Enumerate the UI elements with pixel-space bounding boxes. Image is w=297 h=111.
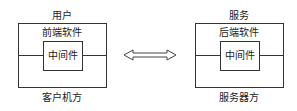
client-middleware-label: 中间件 xyxy=(43,50,83,62)
server-left-line xyxy=(195,55,220,56)
client-bottom-label: 客户机方 xyxy=(30,92,94,104)
server-software-label: 后端软件 xyxy=(207,27,271,39)
server-right-line xyxy=(259,55,284,56)
double-arrow-icon xyxy=(122,48,178,62)
client-top-label: 用户 xyxy=(40,10,84,22)
client-left-line xyxy=(18,55,43,56)
server-bottom-label: 服务器方 xyxy=(207,92,271,104)
server-top-label: 服务 xyxy=(217,10,261,22)
client-right-line xyxy=(82,55,107,56)
client-software-label: 前端软件 xyxy=(30,27,94,39)
server-middleware-label: 中间件 xyxy=(220,50,260,62)
